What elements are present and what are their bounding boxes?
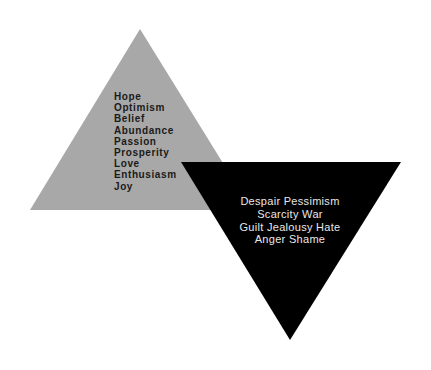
positive-word: Belief (114, 113, 177, 124)
positive-word: Joy (114, 181, 177, 192)
positive-word: Prosperity (114, 147, 177, 158)
negative-triangle (181, 162, 401, 340)
triangles-diagram (0, 0, 431, 370)
negative-line: Scarcity War (220, 208, 360, 221)
negative-line: Anger Shame (220, 233, 360, 246)
negative-line: Guilt Jealousy Hate (220, 221, 360, 234)
positive-word: Love (114, 158, 177, 169)
positive-word: Passion (114, 136, 177, 147)
positive-word: Hope (114, 91, 177, 102)
positive-words-list: Hope Optimism Belief Abundance Passion P… (114, 91, 177, 192)
negative-line: Despair Pessimism (220, 195, 360, 208)
negative-words-list: Despair Pessimism Scarcity War Guilt Jea… (220, 195, 360, 246)
positive-word: Enthusiasm (114, 169, 177, 180)
positive-word: Optimism (114, 102, 177, 113)
positive-word: Abundance (114, 125, 177, 136)
